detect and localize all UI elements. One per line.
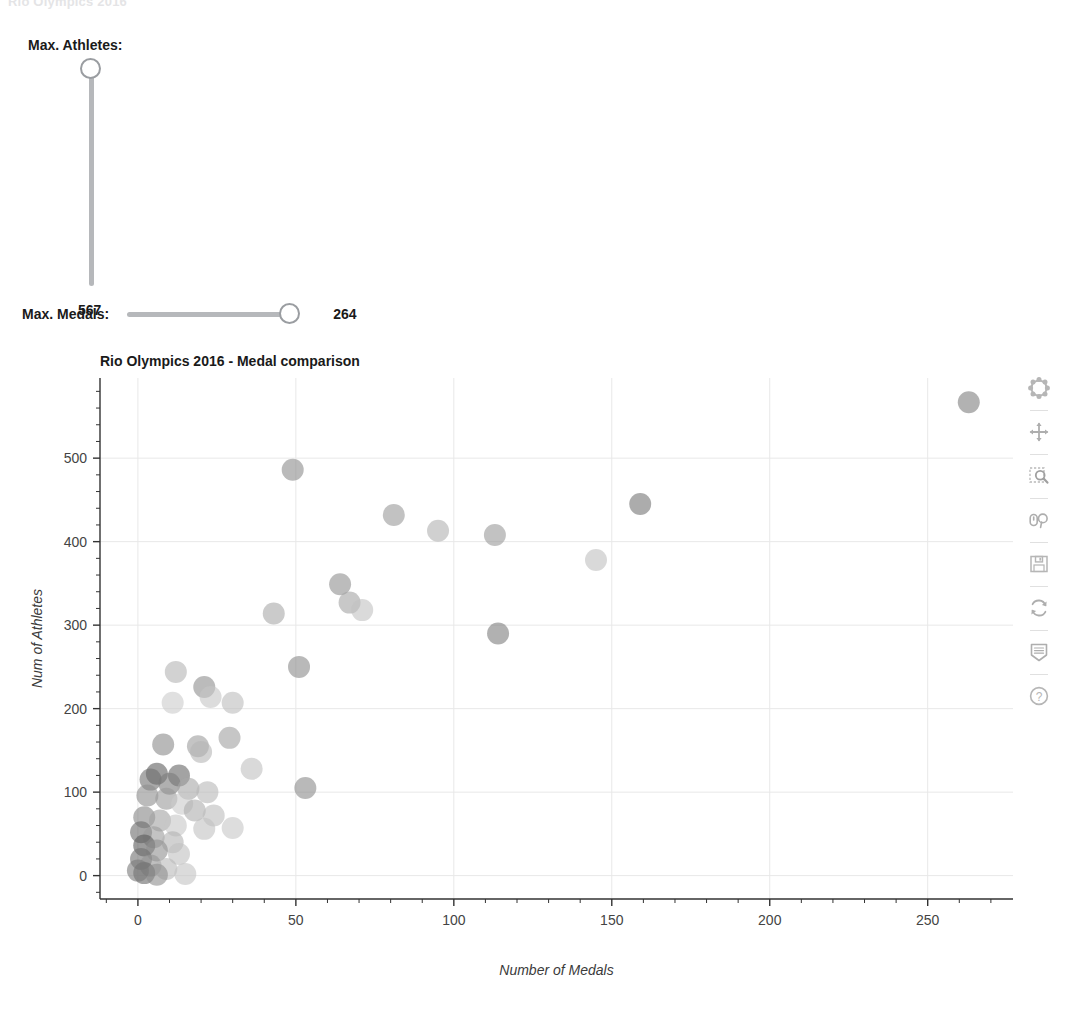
help-icon[interactable]: ? bbox=[1024, 681, 1054, 711]
toolbar-divider bbox=[1030, 454, 1048, 455]
x-tick-label: 100 bbox=[442, 912, 466, 928]
scatter-point bbox=[282, 459, 304, 481]
bokeh-logo-icon[interactable] bbox=[1024, 373, 1054, 403]
cut-off-header-text: Rio Olympics 2016 bbox=[8, 0, 127, 9]
max-medals-slider-handle[interactable] bbox=[279, 303, 300, 324]
x-tick-label: 200 bbox=[758, 912, 782, 928]
hover-icon[interactable] bbox=[1024, 637, 1054, 667]
y-tick-label: 200 bbox=[64, 701, 88, 717]
scatter-point bbox=[162, 692, 184, 714]
x-tick-label: 0 bbox=[134, 912, 142, 928]
scatter-point bbox=[193, 818, 215, 840]
scatter-point bbox=[219, 727, 241, 749]
x-tick-label: 250 bbox=[916, 912, 940, 928]
y-tick-label: 300 bbox=[64, 617, 88, 633]
scatter-point bbox=[487, 622, 509, 644]
max-medals-slider-group: Max. Medals: 264 bbox=[22, 303, 357, 325]
scatter-point bbox=[190, 741, 212, 763]
y-axis: 0100200300400500 bbox=[64, 391, 100, 892]
x-tick-label: 50 bbox=[288, 912, 304, 928]
scatter-point bbox=[383, 504, 405, 526]
max-medals-value: 264 bbox=[333, 306, 356, 322]
max-athletes-slider-handle[interactable] bbox=[80, 58, 101, 79]
reset-icon[interactable] bbox=[1024, 593, 1054, 623]
y-tick-label: 400 bbox=[64, 534, 88, 550]
toolbar-divider bbox=[1030, 586, 1048, 587]
y-axis-title: Num of Athletes bbox=[29, 589, 45, 688]
max-medals-label: Max. Medals: bbox=[22, 306, 109, 322]
scatter-point bbox=[146, 864, 168, 886]
scatter-point bbox=[174, 863, 196, 885]
toolbar-divider bbox=[1030, 410, 1048, 411]
wheel-zoom-icon[interactable] bbox=[1024, 505, 1054, 535]
svg-text:?: ? bbox=[1036, 690, 1043, 704]
max-athletes-slider-track[interactable] bbox=[89, 64, 94, 286]
box-zoom-icon[interactable] bbox=[1024, 461, 1054, 491]
x-axis-title: Number of Medals bbox=[499, 962, 613, 978]
x-tick-label: 150 bbox=[600, 912, 624, 928]
y-tick-label: 0 bbox=[79, 868, 87, 884]
scatter-point bbox=[288, 656, 310, 678]
max-athletes-slider-group: Max. Athletes: 567 bbox=[28, 36, 122, 54]
scatter-point bbox=[263, 602, 285, 624]
plot-canvas[interactable]: 0501001502002500100200300400500Number of… bbox=[0, 345, 1081, 1005]
scatter-point bbox=[200, 686, 222, 708]
scatter-point bbox=[241, 758, 263, 780]
toolbar-divider bbox=[1030, 630, 1048, 631]
toolbar-divider bbox=[1030, 498, 1048, 499]
max-medals-slider-track[interactable] bbox=[127, 312, 297, 317]
scatter-point bbox=[222, 817, 244, 839]
max-medals-slider-rail[interactable] bbox=[127, 303, 297, 325]
pan-icon[interactable] bbox=[1024, 417, 1054, 447]
scatter-point bbox=[152, 734, 174, 756]
x-axis: 050100150200250 bbox=[106, 899, 991, 928]
scatter-point bbox=[629, 493, 651, 515]
toolbar-divider bbox=[1030, 542, 1048, 543]
max-athletes-label: Max. Athletes: bbox=[28, 36, 122, 54]
save-icon[interactable] bbox=[1024, 549, 1054, 579]
app-root: Rio Olympics 2016 Max. Athletes: 567 Max… bbox=[0, 0, 1081, 1020]
scatter-point bbox=[958, 391, 980, 413]
scatter-point bbox=[127, 860, 149, 882]
scatter-point bbox=[585, 549, 607, 571]
scatter-point bbox=[427, 520, 449, 542]
scatter-point bbox=[484, 524, 506, 546]
scatter-point bbox=[351, 599, 373, 621]
scatter-point bbox=[196, 781, 218, 803]
scatter-point bbox=[136, 784, 158, 806]
scatter-point bbox=[222, 692, 244, 714]
y-tick-label: 500 bbox=[64, 450, 88, 466]
toolbar-divider bbox=[1030, 674, 1048, 675]
scatter-point bbox=[165, 661, 187, 683]
y-tick-label: 100 bbox=[64, 784, 88, 800]
scatter-point bbox=[294, 777, 316, 799]
bokeh-toolbar: ? bbox=[1022, 373, 1056, 717]
scatter-plot[interactable]: Rio Olympics 2016 - Medal comparison 050… bbox=[0, 345, 1081, 1005]
